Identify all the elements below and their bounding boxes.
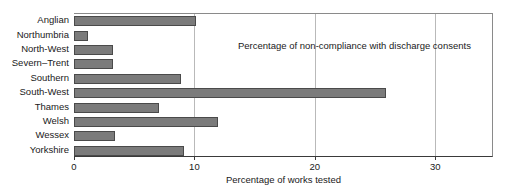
bar <box>74 117 218 127</box>
x-tick-mark <box>74 157 75 160</box>
category-label: Southern <box>0 73 69 83</box>
category-label: Severn–Trent <box>0 58 69 68</box>
category-axis: AnglianNorthumbriaNorth-WestSevern–Trent… <box>0 13 72 157</box>
bar <box>74 131 115 141</box>
chart-annotation: Percentage of non-compliance with discha… <box>238 40 471 51</box>
bar <box>74 59 113 69</box>
category-label: North-West <box>0 44 69 54</box>
bar <box>74 74 181 84</box>
bar <box>74 45 113 55</box>
category-label: Yorkshire <box>0 145 69 155</box>
bar-chart: AnglianNorthumbriaNorth-WestSevern–Trent… <box>0 0 510 195</box>
x-tick-label: 0 <box>71 161 76 172</box>
bar <box>74 103 159 113</box>
category-label: Wessex <box>0 130 69 140</box>
bar <box>74 16 196 26</box>
bar <box>74 146 184 156</box>
plot-area: Percentage of non-compliance with discha… <box>74 13 493 157</box>
category-label: Northumbria <box>0 30 69 40</box>
bars-layer <box>74 14 492 156</box>
category-label: Anglian <box>0 15 69 25</box>
x-axis-title: Percentage of works tested <box>74 174 493 185</box>
x-tick-label: 10 <box>189 161 200 172</box>
bar <box>74 88 386 98</box>
x-tick-mark <box>194 157 195 160</box>
category-label: South-West <box>0 87 69 97</box>
x-axis: Percentage of works tested 0102030 <box>74 157 493 195</box>
bar <box>74 31 88 41</box>
x-tick-mark <box>315 157 316 160</box>
category-label: Thames <box>0 102 69 112</box>
x-tick-mark <box>435 157 436 160</box>
x-tick-label: 20 <box>310 161 321 172</box>
category-label: Welsh <box>0 116 69 126</box>
x-tick-label: 30 <box>430 161 441 172</box>
